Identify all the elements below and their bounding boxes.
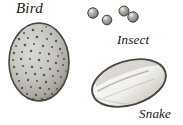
label-insect: Insect <box>117 33 149 46</box>
insect-egg-3 <box>119 6 129 16</box>
snake-egg-illustration <box>86 57 172 109</box>
insect-egg-2 <box>102 15 112 25</box>
insect-egg-1 <box>88 8 98 18</box>
label-bird: Bird <box>16 1 43 16</box>
bird-egg-illustration <box>6 19 74 103</box>
insect-eggs-illustration <box>86 5 142 32</box>
egg-illustration-plate: Bird Insect Snake <box>0 0 183 125</box>
label-snake: Snake <box>139 107 171 120</box>
insect-egg-4 <box>128 12 138 22</box>
